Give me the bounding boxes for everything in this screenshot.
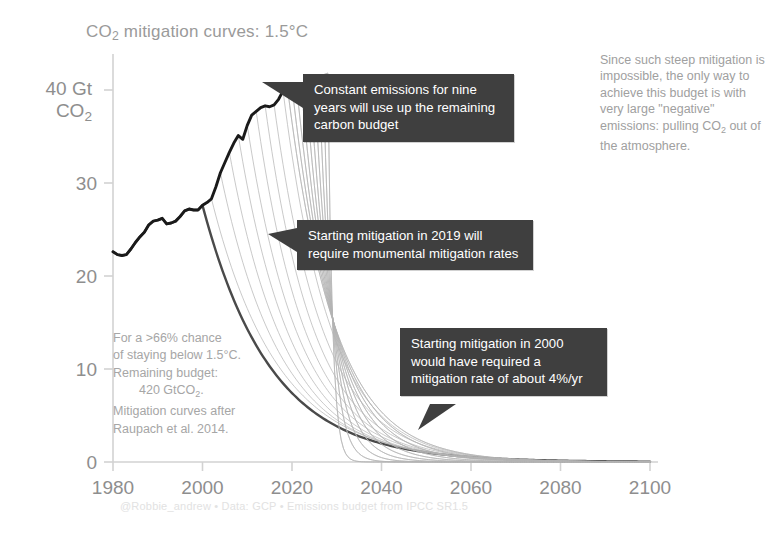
budget-note-line6: Raupach et al. 2014.: [113, 422, 228, 436]
x-tick-label: 2020: [271, 477, 313, 498]
callout-pointer-mitigation-2019: [268, 228, 297, 252]
callout-pointer-mitigation-2000: [418, 404, 456, 430]
budget-note-line5: Mitigation curves after: [113, 404, 235, 418]
x-tick-label: 2080: [539, 477, 581, 498]
x-tick-label: 1980: [92, 477, 134, 498]
y-tick-label: 10: [76, 359, 97, 380]
callout-mitigation-2019[interactable]: Starting mitigation in 2019 will require…: [297, 220, 533, 270]
constant-emission-curve-2020: [288, 86, 650, 461]
y-tick-label: 20: [76, 266, 97, 287]
y-tick-label: 0: [86, 452, 97, 473]
chart-figure: CO2 mitigation curves: 1.5°C 40 Gt CO2 0…: [0, 0, 768, 539]
y-tick-label: 30: [76, 173, 97, 194]
budget-note-line3: Remaining budget:: [113, 366, 218, 380]
constant-emission-curve-2019: [288, 88, 650, 462]
callout-constant-emissions[interactable]: Constant emissions for nine years will u…: [303, 74, 514, 142]
side-note-negative-emissions: Since such steep mitigation is impossibl…: [600, 52, 765, 154]
x-tick-label: 2000: [181, 477, 223, 498]
x-tick-label: 2040: [360, 477, 402, 498]
budget-note-line1: For a >66% chance: [113, 331, 222, 345]
budget-note: For a >66% chance of staying below 1.5°C…: [113, 330, 313, 438]
callout-pointer-constant-emissions: [262, 82, 303, 108]
callout-mitigation-2000[interactable]: Starting mitigation in 2000 would have r…: [400, 328, 607, 396]
historical-emissions-line: [113, 88, 288, 255]
budget-note-line2: of staying below 1.5°C.: [113, 348, 241, 362]
x-tick-label: 2100: [629, 477, 671, 498]
x-tick-label: 2060: [450, 477, 492, 498]
budget-note-line4: 420 GtCO2.: [113, 382, 313, 403]
credit-line: @Robbie_andrew • Data: GCP • Emissions b…: [120, 500, 468, 512]
